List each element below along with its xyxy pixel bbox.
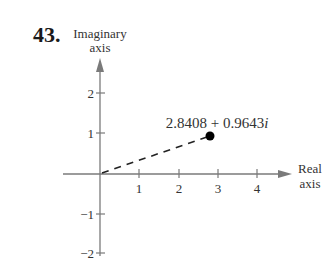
y-axis-label-line1: Imaginary: [73, 26, 127, 41]
x-axis-label-line2: axis: [300, 176, 321, 191]
real-axis-arrow-icon: [278, 170, 292, 178]
y-tick-label: 1: [88, 126, 95, 141]
x-tick-label: 1: [136, 181, 143, 196]
x-tick-label: 3: [215, 181, 222, 196]
x-tick-label: 2: [176, 181, 183, 196]
y-tick-label: 2: [88, 86, 95, 101]
x-axis-label-line1: Real: [298, 161, 322, 176]
x-tick-label: 4: [254, 181, 261, 196]
y-axis-label-line2: axis: [90, 40, 111, 55]
y-tick-label: −1: [80, 207, 94, 222]
imaginary-axis-arrow-icon: [96, 58, 104, 72]
data-point: [206, 132, 215, 141]
dashed-vector-line: [102, 137, 207, 173]
complex-plane-chart: 2 1 −1 −2 1 2 3 4 Imaginary axis Real ax…: [0, 0, 329, 263]
point-label: 2.8408 + 0.9643i: [166, 115, 269, 131]
y-tick-label: −2: [80, 246, 94, 261]
